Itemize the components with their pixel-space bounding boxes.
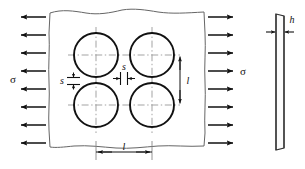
pitch-horizontal-label: l	[123, 141, 126, 152]
stress-label-right: σ	[240, 65, 246, 77]
ligament-vertical-label: s	[60, 75, 64, 86]
pitch-vertical-label: l	[187, 75, 190, 86]
side-view-plate	[276, 14, 284, 150]
perforated-plate-diagram: σ σ	[0, 0, 305, 169]
ligament-horizontal-label: s	[122, 61, 126, 72]
thickness-label: h	[290, 14, 295, 25]
stress-label-left: σ	[10, 73, 16, 85]
figure-canvas: σ σ	[0, 0, 305, 169]
